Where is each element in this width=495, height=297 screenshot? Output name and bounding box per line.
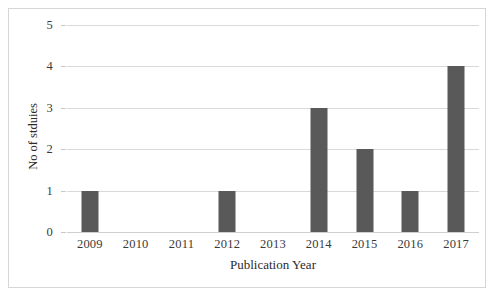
- x-tick-label-2013: 2013: [260, 237, 286, 252]
- bar-2014[interactable]: [310, 108, 327, 232]
- x-tick-label-2009: 2009: [77, 237, 103, 252]
- y-tick-mark-4: [61, 66, 66, 67]
- y-tick-label-3: 3: [47, 102, 53, 115]
- x-tick-label-2012: 2012: [214, 237, 240, 252]
- bar-2009[interactable]: [81, 191, 98, 232]
- plot-area: [67, 25, 479, 232]
- x-tick-label-2017: 2017: [443, 237, 469, 252]
- y-tick-label-2: 2: [47, 143, 53, 156]
- bar-slot: [387, 25, 433, 232]
- y-tick-mark-3: [61, 108, 66, 109]
- x-tick-label-2010: 2010: [123, 237, 149, 252]
- y-tick-mark-2: [61, 149, 66, 150]
- x-tick-label-2014: 2014: [306, 237, 332, 252]
- bar-slot: [67, 25, 113, 232]
- y-tick-label-4: 4: [47, 60, 53, 73]
- bar-slot: [296, 25, 342, 232]
- bar-2012[interactable]: [219, 191, 236, 232]
- y-tick-mark-1: [61, 191, 66, 192]
- x-tick-label-2015: 2015: [352, 237, 378, 252]
- x-axis-title: Publication Year: [67, 257, 479, 273]
- y-tick-label-1: 1: [47, 184, 53, 197]
- bar-2015[interactable]: [356, 149, 373, 232]
- y-tick-label-5: 5: [47, 19, 53, 32]
- bar-series: [67, 25, 479, 232]
- bar-2017[interactable]: [448, 66, 465, 232]
- gridline-0: [67, 232, 479, 233]
- y-tick-mark-0: [61, 232, 66, 233]
- y-tick-label-0: 0: [47, 226, 53, 239]
- chart-container: 012345 No of stduies 2009201020112012201…: [8, 8, 486, 288]
- bar-slot: [204, 25, 250, 232]
- x-tick-label-2011: 2011: [169, 237, 194, 252]
- bar-slot: [113, 25, 159, 232]
- x-tick-label-2016: 2016: [397, 237, 423, 252]
- bar-slot: [433, 25, 479, 232]
- bar-slot: [342, 25, 388, 232]
- bar-slot: [250, 25, 296, 232]
- y-tick-mark-5: [61, 25, 66, 26]
- y-axis-title: No of stduies: [26, 76, 41, 196]
- bar-slot: [159, 25, 205, 232]
- bar-2016[interactable]: [402, 191, 419, 232]
- x-axis: 200920102011201220132014201520162017: [67, 237, 479, 255]
